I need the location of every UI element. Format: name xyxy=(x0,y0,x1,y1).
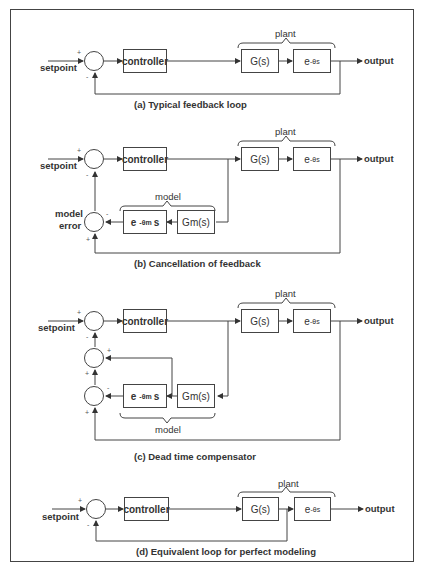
sum-sign-minus: - xyxy=(87,521,89,528)
plant-label: plant xyxy=(275,28,296,39)
delay-exponent: -θs xyxy=(310,58,320,65)
controller-block: controller xyxy=(123,309,167,333)
sum-sign-minus: - xyxy=(86,73,88,80)
model-error-summing-junction xyxy=(84,212,104,232)
sum-sign-plus: + xyxy=(85,409,89,416)
sum-sign-plus: + xyxy=(77,147,81,154)
delay-exponent: -θs xyxy=(310,506,320,513)
sum-sign-plus: + xyxy=(77,309,81,316)
model-label: model xyxy=(155,191,181,202)
model-label: model xyxy=(155,424,181,435)
summing-junction-lower xyxy=(84,386,104,406)
plant-delay-block: e-θs xyxy=(293,147,331,171)
caption-a: (a) Typical feedback loop xyxy=(134,99,247,110)
sum-sign-minus: - xyxy=(86,333,88,340)
model-delay-block: e-θms xyxy=(123,210,167,234)
caption-c: (c) Dead time compensator xyxy=(134,451,256,462)
plant-label: plant xyxy=(275,126,296,137)
delay-exponent: -θs xyxy=(310,156,320,163)
controller-block: controller xyxy=(123,147,167,171)
setpoint-label: setpoint xyxy=(40,62,77,73)
plant-g-block: G(s) xyxy=(241,49,279,73)
setpoint-label: setpoint xyxy=(38,322,75,333)
controller-block: controller xyxy=(124,497,169,521)
model-error-label-1: model xyxy=(55,208,83,219)
plant-delay-block: e-θs xyxy=(294,497,331,521)
output-label: output xyxy=(364,153,394,164)
connector-lines xyxy=(0,0,429,578)
output-label: output xyxy=(365,503,395,514)
delay-base: e xyxy=(131,391,137,402)
summing-junction xyxy=(84,51,104,71)
controller-block: controller xyxy=(123,49,167,73)
plant-label: plant xyxy=(278,478,299,489)
sum-sign-minus: - xyxy=(86,171,88,178)
model-delay-block: e-θms xyxy=(123,384,167,408)
caption-d: (d) Equivalent loop for perfect modeling xyxy=(136,546,316,557)
delay-exponent: -θm xyxy=(139,219,151,226)
plant-g-block: G(s) xyxy=(241,147,279,171)
model-gm-block: Gm(s) xyxy=(177,384,215,408)
plant-delay-block: e-θs xyxy=(293,49,331,73)
model-error-label-2: error xyxy=(59,220,81,231)
sum-sign-plus: + xyxy=(78,497,82,504)
sum-sign-plus: + xyxy=(107,347,111,354)
output-label: output xyxy=(364,315,394,326)
sum-sign-plus: + xyxy=(77,49,81,56)
model-gm-block: Gm(s) xyxy=(177,210,215,234)
delay-exponent: -θm xyxy=(139,393,151,400)
plant-g-block: G(s) xyxy=(241,309,279,333)
summing-junction xyxy=(86,499,106,519)
summing-junction-main xyxy=(84,311,104,331)
setpoint-label: setpoint xyxy=(42,511,79,522)
delay-base: e xyxy=(131,217,137,228)
output-label: output xyxy=(364,55,394,66)
plant-label: plant xyxy=(275,288,296,299)
summing-junction-middle xyxy=(84,348,104,368)
caption-b: (b) Cancellation of feedback xyxy=(134,258,261,269)
delay-exponent: -θs xyxy=(310,318,320,325)
plant-delay-block: e-θs xyxy=(293,309,331,333)
sum-sign-plus: + xyxy=(85,370,89,377)
sum-sign-minus: - xyxy=(107,384,109,391)
setpoint-label: setpoint xyxy=(40,160,77,171)
plant-g-block: G(s) xyxy=(242,497,279,521)
sum-sign-plus: + xyxy=(86,236,90,243)
summing-junction xyxy=(84,149,104,169)
sum-sign-minus: - xyxy=(106,210,108,217)
